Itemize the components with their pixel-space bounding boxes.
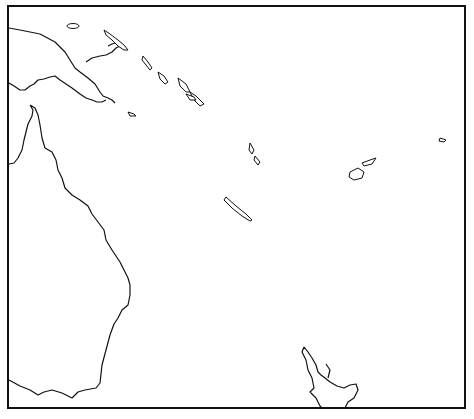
fiji-vanua-levu — [362, 158, 376, 166]
vanuatu-island-b — [254, 156, 260, 165]
pacific-map — [0, 0, 474, 419]
new-britain-island — [67, 24, 79, 29]
islands — [67, 24, 446, 222]
fiji-viti-levu — [349, 168, 364, 180]
samoa-island — [439, 138, 446, 142]
new-guinea-coast — [9, 28, 122, 103]
solomon-island-a — [158, 72, 168, 84]
new-zealand-east-cape — [326, 364, 330, 378]
map-root — [0, 0, 474, 419]
australia-east-coast — [9, 105, 130, 398]
new-caledonia-island — [224, 197, 252, 221]
new-guinea-south-coast — [9, 76, 106, 102]
bougainville-island — [142, 56, 152, 70]
louisiade-islands — [128, 112, 136, 116]
vanuatu-island-a — [249, 143, 254, 154]
new-ireland-island — [104, 30, 128, 50]
new-zealand-north-island — [302, 347, 358, 408]
solomon-island-b — [178, 78, 190, 92]
